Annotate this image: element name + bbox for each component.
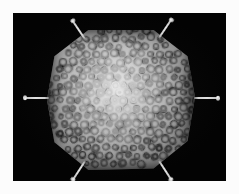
- virus-particle: [13, 13, 226, 181]
- fiber-right: [194, 95, 218, 101]
- fiber-left-shaft: [25, 97, 49, 99]
- fiber-right-knob: [216, 96, 220, 101]
- fiber-left: [25, 95, 49, 101]
- figure-root: [0, 0, 239, 194]
- fiber-upper-left-knob: [70, 18, 76, 24]
- fiber-lower-right-knob: [168, 177, 174, 181]
- fiber-lower-left-knob: [70, 177, 76, 181]
- capsid-shell: [47, 27, 195, 173]
- fiber-right-shaft: [194, 97, 218, 99]
- fiber-upper-right-knob: [168, 17, 174, 23]
- fiber-left-knob: [23, 96, 27, 101]
- fiber-lower-right-shaft: [158, 160, 172, 180]
- micrograph-panel: [13, 13, 226, 181]
